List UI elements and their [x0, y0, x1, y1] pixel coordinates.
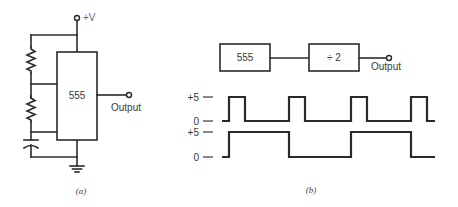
- output-terminal-icon: [127, 93, 132, 98]
- block-divide-label: ÷ 2: [327, 52, 341, 63]
- output-label-a: Output: [111, 102, 141, 113]
- supply-label: +V: [83, 12, 96, 23]
- ground-icon: [70, 166, 84, 172]
- ic-555-label: 555: [69, 90, 86, 101]
- capacitor-icon: [24, 140, 38, 157]
- wave-bottom-divided-square: [222, 132, 435, 157]
- figure-b-block-diagram: 555 ÷ 2 Output: [220, 44, 401, 72]
- wave-top-high-label: +5: [188, 92, 200, 103]
- resistor-r2-icon: [27, 96, 35, 122]
- wave-top-low-label: 0: [193, 116, 199, 127]
- figure-b-waveforms: +5 0 +5 0 (b): [188, 92, 435, 196]
- block-output-terminal-icon: [387, 56, 392, 61]
- wave-top-555-pulses: [222, 97, 435, 121]
- wave-bottom-high-label: +5: [188, 127, 200, 138]
- wave-bottom-low-label: 0: [193, 152, 199, 163]
- output-label-b: Output: [371, 61, 401, 72]
- figure-canvas: +V 555: [0, 0, 458, 207]
- resistor-r1-icon: [27, 47, 35, 73]
- figure-a-circuit: +V 555: [24, 12, 141, 196]
- caption-b: (b): [306, 185, 317, 195]
- caption-a: (a): [76, 186, 87, 196]
- block-555-label: 555: [237, 52, 254, 63]
